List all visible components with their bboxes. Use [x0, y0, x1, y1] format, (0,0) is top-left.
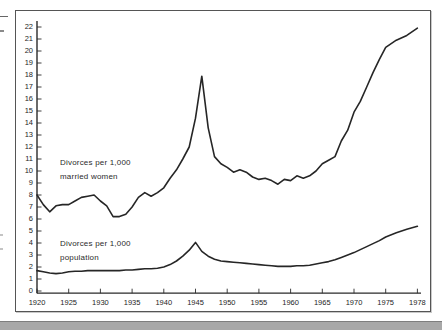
left-edge-artifact [0, 234, 3, 236]
series-label-married-women-line1: Divorces per 1,000 [60, 156, 131, 170]
footer-band [0, 321, 442, 330]
x-axis-tick-label: 1945 [183, 298, 209, 307]
x-axis-tick-label: 1935 [119, 298, 145, 307]
x-axis-tick-label: 1920 [24, 298, 50, 307]
y-axis-tick-label: 9 [17, 179, 33, 187]
y-axis-tick-label: 22 [17, 23, 33, 31]
x-axis-tick-label: 1940 [151, 298, 177, 307]
y-axis-tick-label: 16 [17, 95, 33, 103]
y-axis-tick-label: 10 [17, 167, 33, 175]
x-axis-tick-label: 1975 [373, 298, 399, 307]
y-axis-tick-label: 6 [17, 215, 33, 223]
y-axis-tick-label: 2 [17, 263, 33, 271]
y-axis-tick-label: 8 [17, 191, 33, 199]
y-axis-tick-label: 0 [17, 287, 33, 295]
y-axis-tick-label: 11 [17, 155, 33, 163]
x-axis-tick-label: 1970 [341, 298, 367, 307]
y-axis-tick-label: 18 [17, 71, 33, 79]
y-axis-tick-label: 1 [17, 275, 33, 283]
series-label-married-women: Divorces per 1,000 married women [60, 156, 131, 183]
line-married-women [37, 28, 417, 216]
series-label-population-line1: Divorces per 1,000 [60, 237, 131, 251]
y-axis-tick-label: 14 [17, 119, 33, 127]
y-axis-tick-label: 15 [17, 107, 33, 115]
x-axis-tick-label: 1960 [278, 298, 304, 307]
left-edge-artifact [0, 30, 4, 32]
y-axis-tick-label: 12 [17, 143, 33, 151]
y-axis-tick-label: 7 [17, 203, 33, 211]
x-axis-tick-label: 1950 [214, 298, 240, 307]
series-label-population-line2: population [60, 251, 131, 265]
left-edge-artifact [0, 16, 8, 17]
x-axis-tick-label: 1925 [56, 298, 82, 307]
series-label-married-women-line2: married women [60, 170, 131, 184]
y-axis-tick-label: 3 [17, 251, 33, 259]
y-axis-tick-label: 17 [17, 83, 33, 91]
x-axis-tick-label: 1955 [246, 298, 272, 307]
y-axis-tick-label: 20 [17, 47, 33, 55]
series-label-population: Divorces per 1,000 population [60, 237, 131, 264]
y-axis-tick-label: 21 [17, 35, 33, 43]
y-axis-tick-label: 13 [17, 131, 33, 139]
x-axis-tick-label: 1978 [404, 298, 430, 307]
y-axis-tick-label: 5 [17, 227, 33, 235]
left-edge-artifact [0, 248, 3, 250]
y-axis-tick-label: 4 [17, 239, 33, 247]
x-axis-tick-label: 1930 [87, 298, 113, 307]
y-axis-tick-label: 19 [17, 59, 33, 67]
x-axis-tick-label: 1965 [309, 298, 335, 307]
